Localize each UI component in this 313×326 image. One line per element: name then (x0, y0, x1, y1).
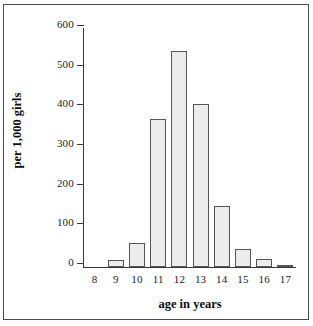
x-axis-title: age in years (84, 297, 296, 312)
figure-frame: per 1,000 girls 0100200300400500600 8910… (3, 4, 309, 320)
bar-age-10 (129, 243, 145, 267)
bar-age-12 (171, 51, 187, 267)
x-axis-tick-label: 15 (232, 273, 254, 285)
y-axis-tick (77, 223, 84, 224)
x-axis-tick-label: 12 (168, 273, 190, 285)
plot-area (84, 29, 296, 267)
bar-age-17 (277, 265, 293, 267)
x-axis-tick-label: 11 (147, 273, 169, 285)
chart-figure: per 1,000 girls 0100200300400500600 8910… (0, 0, 313, 326)
bar-age-15 (235, 249, 251, 267)
y-axis-tick-label: 400 (40, 97, 74, 109)
bar-age-11 (150, 119, 166, 267)
y-axis-tick (77, 184, 84, 185)
x-axis-tick-label: 17 (274, 273, 296, 285)
x-axis-tick-label: 14 (211, 273, 233, 285)
y-axis-tick (77, 263, 84, 264)
y-axis-tick (77, 144, 84, 145)
x-axis-tick-label: 16 (253, 273, 275, 285)
y-axis-tick (77, 104, 84, 105)
y-axis-title-container: per 1,000 girls (4, 5, 30, 267)
bar-age-16 (256, 259, 272, 267)
y-axis-tick-label: 300 (40, 137, 74, 149)
y-axis-tick-label: 500 (40, 58, 74, 70)
y-axis-tick-label: 0 (40, 256, 74, 268)
x-axis-tick-label: 8 (84, 273, 106, 285)
x-axis-tick-label: 9 (105, 273, 127, 285)
y-axis-tick-label: 100 (40, 216, 74, 228)
y-axis-tick-label: 200 (40, 177, 74, 189)
x-axis-line (83, 267, 296, 268)
y-axis-tick (77, 65, 84, 66)
x-axis-tick-label: 10 (126, 273, 148, 285)
x-axis-tick-label: 13 (190, 273, 212, 285)
bar-age-14 (214, 206, 230, 267)
y-axis-tick-label: 600 (40, 18, 74, 30)
y-axis-tick (77, 25, 84, 26)
bar-age-9 (108, 260, 124, 267)
y-axis-title: per 1,000 girls (10, 56, 25, 206)
bar-age-13 (193, 104, 209, 267)
